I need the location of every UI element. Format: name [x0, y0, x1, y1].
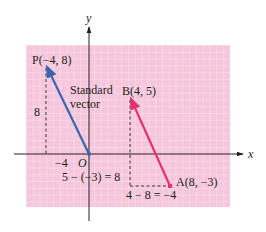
origin-dot [87, 152, 91, 156]
y-axis-label: y [85, 11, 92, 25]
horizontal-difference-label: 4 − 8 = −4 [126, 188, 176, 202]
point-b-label: B(4, 5) [122, 84, 156, 98]
standard-vector-label-line2: vector [70, 97, 100, 111]
point-p-label: P(−4, 8) [32, 53, 71, 67]
x-axis-label: x [247, 147, 254, 161]
y-tick-label-8: 8 [34, 105, 40, 119]
x-tick-label-neg4: −4 [55, 156, 68, 170]
vertical-difference-label: 5 − (−3) = 8 [62, 170, 120, 184]
vector-diagram: y x O −4 8 P(−4, 8) B(4, 5) A(8, −3) Sta… [0, 0, 266, 232]
origin-label: O [78, 156, 87, 170]
point-a-label: A(8, −3) [176, 175, 217, 189]
standard-vector-label-line1: Standard [70, 83, 113, 97]
